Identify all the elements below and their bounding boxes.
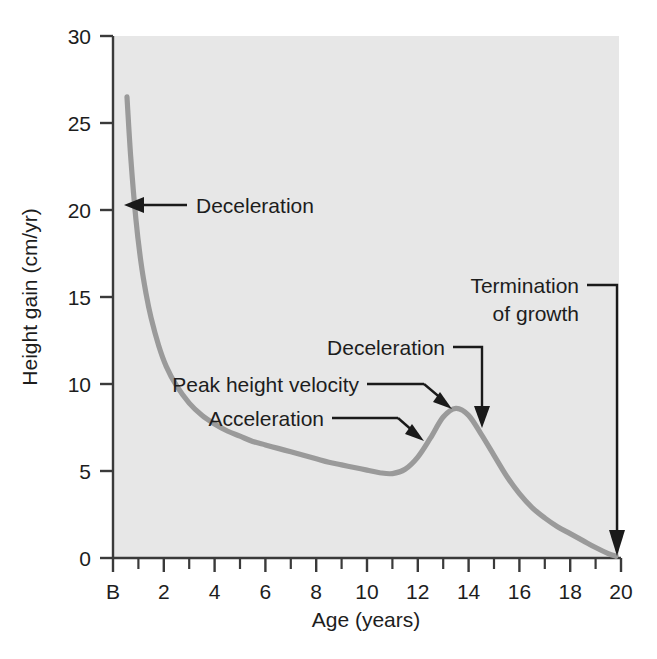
y-tick-label: 5 — [79, 460, 91, 483]
x-tick-label: 8 — [310, 580, 322, 603]
y-axis-title: Height gain (cm/yr) — [18, 208, 41, 385]
x-axis-tick-labels: B2468101214161820 — [106, 580, 633, 603]
y-axis-ticks — [100, 36, 113, 558]
x-axis-title: Age (years) — [312, 608, 421, 631]
y-tick-label: 15 — [68, 286, 91, 309]
y-tick-label: 10 — [68, 373, 91, 396]
height-velocity-chart: 051015202530 B2468101214161820 — [0, 0, 657, 659]
plot-area-background — [113, 36, 619, 558]
annotation-deceleration-pubertal: Deceleration — [327, 336, 445, 359]
annotation-peak-height-velocity: Peak height velocity — [172, 373, 359, 396]
y-tick-label: 30 — [68, 25, 91, 48]
x-tick-label: 6 — [260, 580, 272, 603]
chart-canvas: 051015202530 B2468101214161820 — [0, 0, 657, 659]
x-tick-label: 10 — [355, 580, 378, 603]
y-tick-label: 0 — [79, 547, 91, 570]
y-tick-label: 20 — [68, 199, 91, 222]
x-tick-label: 2 — [158, 580, 170, 603]
annotation-termination-line2: of growth — [493, 302, 579, 325]
x-tick-label: 12 — [406, 580, 429, 603]
annotation-deceleration-early: Deceleration — [196, 194, 314, 217]
x-tick-label: 14 — [457, 580, 481, 603]
x-tick-label: B — [106, 580, 120, 603]
annotation-termination-line1: Termination — [470, 274, 579, 297]
x-tick-label: 18 — [559, 580, 582, 603]
x-tick-label: 20 — [609, 580, 632, 603]
y-axis-tick-labels: 051015202530 — [68, 25, 91, 570]
x-tick-label: 16 — [508, 580, 531, 603]
x-tick-label: 4 — [209, 580, 221, 603]
y-tick-label: 25 — [68, 112, 91, 135]
annotation-acceleration: Acceleration — [208, 407, 324, 430]
